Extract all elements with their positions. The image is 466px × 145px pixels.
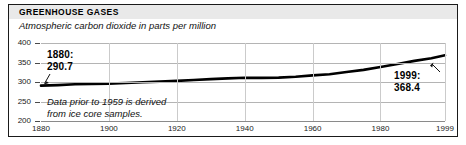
callout-1999-value: 368.4 xyxy=(394,82,421,94)
greenhouse-gases-chart-figure: GREENHOUSE GASES Atmospheric carbon diox… xyxy=(0,0,466,145)
callout-1880-year: 1880: xyxy=(47,49,74,61)
chart-footnote: Data prior to 1959 is derived from ice c… xyxy=(47,96,166,119)
callout-1880-value: 290.7 xyxy=(47,61,74,73)
callout-1880: 1880: 290.7 xyxy=(47,49,74,72)
callout-1999-year: 1999: xyxy=(394,70,421,82)
callout-1999: 1999: 368.4 xyxy=(394,70,421,93)
